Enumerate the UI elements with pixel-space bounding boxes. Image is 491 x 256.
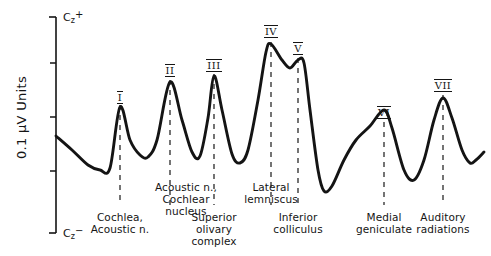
- y-axis-units-label: 0.1 μV Units: [14, 58, 29, 178]
- y-axis: [49, 17, 56, 233]
- peak-numeral-vii: VII: [413, 80, 473, 91]
- peak-numeral-text: VI: [377, 106, 391, 119]
- peak-numeral-iii: III: [184, 60, 244, 71]
- peak-numeral-vi: VI: [354, 107, 414, 118]
- peak-caption-iv: Lateral lemniscus: [216, 182, 326, 206]
- peak-caption-vii: Auditory radiations: [388, 212, 491, 236]
- abr-waveform-figure: Cz+ Cz− 0.1 μV Units ICochlea, Acoustic …: [0, 0, 491, 256]
- peak-numeral-text: VII: [434, 79, 453, 92]
- peak-numeral-text: IV: [264, 25, 278, 38]
- peak-numeral-v: V: [268, 43, 328, 54]
- y-axis-ticks: [50, 63, 56, 171]
- peak-numeral-text: V: [293, 42, 303, 55]
- peak-numeral-i: I: [90, 92, 150, 103]
- peak-numeral-text: III: [206, 59, 221, 72]
- peak-numeral-iv: IV: [241, 26, 301, 37]
- peak-numeral-text: I: [117, 91, 123, 104]
- y-axis-top-label: Cz+: [63, 9, 83, 26]
- peak-numeral-text: II: [165, 64, 176, 77]
